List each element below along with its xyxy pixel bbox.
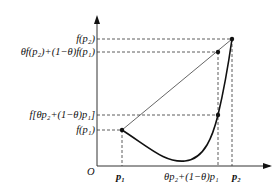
label-p1: p₁ bbox=[116, 172, 125, 183]
point-chord bbox=[216, 50, 220, 54]
convex-curve bbox=[122, 39, 232, 161]
label-f-p1: f(p₁) bbox=[76, 125, 95, 136]
label-p2: p₂ bbox=[232, 172, 241, 183]
convexity-diagram bbox=[0, 0, 277, 190]
point-curve bbox=[216, 113, 220, 117]
label-mix: θp₂+(1−θ)p₁ bbox=[164, 172, 219, 183]
chord-line bbox=[122, 39, 232, 130]
label-origin: O bbox=[87, 167, 95, 178]
label-f-mix: f[θp₂+(1−θ)p₁] bbox=[29, 110, 95, 121]
y-axis-arrow-icon bbox=[94, 15, 100, 24]
point-p1 bbox=[120, 128, 124, 132]
x-axis-arrow-icon bbox=[263, 163, 272, 169]
label-chord-value: θf(p₂)+(1−θ)f(p₁) bbox=[21, 47, 95, 58]
point-p2 bbox=[230, 37, 234, 41]
label-f-p2: f(p₂) bbox=[76, 34, 95, 45]
